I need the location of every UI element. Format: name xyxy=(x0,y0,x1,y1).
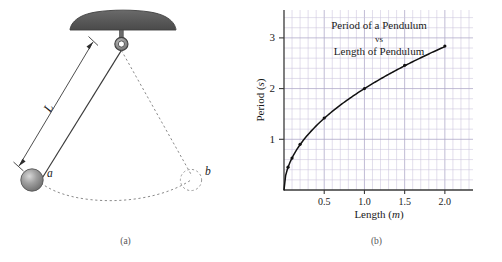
x-axis-label-main: Length ( xyxy=(354,208,392,221)
pendulum-string xyxy=(41,50,121,180)
pendulum-diagram-svg: L a b xyxy=(0,0,251,236)
data-point-markers xyxy=(286,44,446,168)
x-axis-label-unit: m xyxy=(392,208,400,220)
y-axis-label-main: Period ( xyxy=(254,86,267,121)
chart-title-line-1: Period of a Pendulum xyxy=(331,19,427,31)
x-axis-label-close: ) xyxy=(400,208,404,221)
pendulum-figure: L a b (a) 0.51.01.52.0123 Period of a Pe… xyxy=(0,0,502,262)
length-label: L xyxy=(40,102,56,116)
svg-text:2: 2 xyxy=(270,82,276,94)
ceiling-mount xyxy=(70,10,176,30)
svg-text:Length (m): Length (m) xyxy=(354,208,404,221)
chart-title-line-3: Length of Pendulum xyxy=(334,45,425,57)
hanger-stem xyxy=(120,30,124,38)
svg-text:1.5: 1.5 xyxy=(398,196,411,207)
position-b-label: b xyxy=(205,165,211,177)
panel-b-caption: (b) xyxy=(251,236,502,246)
pendulum-bob xyxy=(21,169,43,191)
pendulum-string-dashed-b xyxy=(121,50,192,176)
swing-arc xyxy=(41,180,191,201)
panel-a-caption: (a) xyxy=(0,236,251,246)
pendulum-bob-ghost-b xyxy=(180,169,201,190)
length-dimension-arrow xyxy=(19,42,93,166)
period-vs-length-chart: 0.51.01.52.0123 Period of a Pendulum vs … xyxy=(251,0,502,236)
pivot-ring-hole xyxy=(118,41,124,47)
svg-text:1.0: 1.0 xyxy=(358,196,371,207)
svg-text:1: 1 xyxy=(270,133,276,145)
length-arrowhead-bottom xyxy=(19,159,26,166)
svg-text:2.0: 2.0 xyxy=(439,196,452,207)
length-arrowhead-top xyxy=(87,42,94,49)
svg-text:Period (s): Period (s) xyxy=(254,78,267,121)
svg-text:3: 3 xyxy=(270,31,276,43)
panel-a-pendulum-diagram: L a b (a) xyxy=(0,0,251,262)
x-axis-label: Length (m) xyxy=(354,208,404,221)
panel-b-chart: 0.51.01.52.0123 Period of a Pendulum vs … xyxy=(251,0,502,262)
y-axis-label: Period (s) xyxy=(254,78,267,121)
y-axis-label-close: ) xyxy=(254,78,267,82)
position-a-label: a xyxy=(47,167,53,179)
axis-ticks xyxy=(279,38,445,194)
svg-text:0.5: 0.5 xyxy=(318,196,331,207)
chart-title-line-2: vs xyxy=(375,34,384,44)
